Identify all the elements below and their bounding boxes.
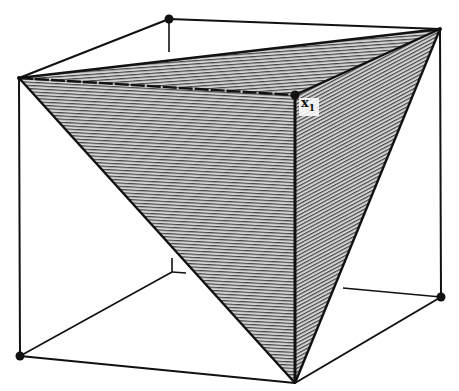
vertex-dot-top-back-left [165, 15, 174, 24]
edge-bottom-back-right-stub [343, 288, 441, 297]
edge-back-right-vertical [440, 29, 441, 297]
edge-bottom-front [20, 356, 295, 383]
edge-bottom-back-left-stub-right [172, 272, 186, 273]
vertex-dot-top-front-left [17, 76, 21, 80]
tetrahedron [19, 29, 440, 383]
vertex-dot-bottom-back-right [437, 293, 446, 302]
vertex-dot-x1 [291, 91, 300, 100]
vertex-dot-bottom-front-left [16, 352, 25, 361]
vertex-dot-top-back-right [438, 27, 442, 31]
edge-front-left-vertical [19, 78, 20, 356]
edge-bottom-back-left-to-front-left [20, 272, 172, 356]
vertex-label-x1: x1 [301, 95, 315, 113]
vertex-label-subscript: 1 [309, 103, 315, 113]
vertex-label-main: x [301, 95, 309, 110]
edge-top-back [169, 19, 440, 29]
cube-diagram [0, 0, 459, 391]
